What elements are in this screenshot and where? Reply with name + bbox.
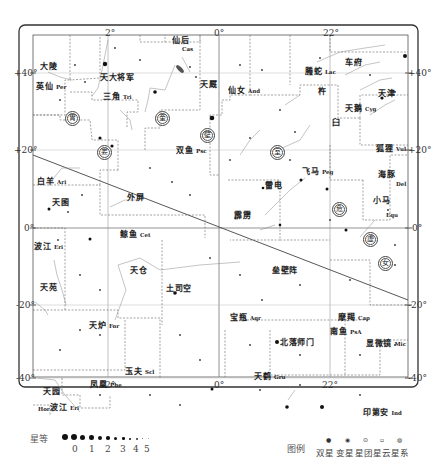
constellation-label: 印第安Ind [363,408,402,418]
lunar-mansion-marker: 胃 [65,111,80,126]
ra-label-top-22h: 22° [323,28,339,38]
constellation-label: 南鱼PsA [330,327,362,337]
constellation-label: 白羊Ari [37,177,66,187]
magnitude-dot [136,438,138,440]
constellation-label: 杵 [318,87,327,96]
star-cluster-icon: ⊙ [363,436,368,443]
constellation-label: 鲸鱼Cet [120,230,150,240]
constellation-label: 波江Eri [34,242,63,252]
magnitude-dot [148,438,149,439]
lunar-mansion-marker: 室 [270,145,285,160]
galaxy-icon: ◍ [397,436,402,443]
constellation-label: 霹雳 [234,211,251,220]
lunar-mansion-marker: 女 [378,256,393,271]
dec-label-right-0: 0° [412,223,422,233]
lunar-mansion-marker: 危 [332,202,347,217]
magnitude-dot [106,436,110,440]
ra-label-top-2h: 2° [105,28,115,38]
constellation-label: 天苑 [40,283,57,292]
magnitude-dot [122,437,125,440]
constellation-label: 北落师门 [280,338,314,347]
dec-label-right-p20: +20° [408,145,432,155]
magnitude-dot [62,434,68,440]
dec-label-left-m40: -40° [16,373,35,383]
magnitude-value: 2 [105,444,111,454]
constellation-label: 三角Tri [103,92,132,102]
magnitude-legend-label: 星等 [30,432,48,445]
constellation-label: 仙女And [228,86,260,96]
ra-label-bottom-22h: 22° [322,380,338,390]
constellation-label: 天园 [43,387,60,396]
variable-star-icon: ◉ [345,436,350,443]
lunar-mansion-marker: 壁 [200,128,215,143]
constellation-abbr: Equ [383,210,398,220]
constellation-label: 双鱼Psc [176,146,207,156]
legend-item: 星系 [391,446,409,458]
constellation-label: 天大将军 [100,73,134,82]
constellation-abbr: Del [393,179,406,189]
constellation-label: 螣蛇Lac [305,67,336,77]
constellation-label: 英仙Per [36,82,66,92]
constellation-label: 摩羯Cap [338,313,370,323]
dec-label-left-m20: -20° [16,300,35,310]
legend-item: 星云 [373,446,391,458]
magnitude-dot [71,434,77,440]
constellation-label: 玉夫Scl [125,367,154,377]
constellation-label: 土司空 [166,284,192,293]
magnitude-value: 0 [72,444,78,454]
legend-item: 星团 [355,446,373,458]
legend-item: 双星 [316,446,334,458]
constellation-label: 天仓 [130,266,147,275]
magnitude-value: 1 [89,444,95,454]
magnitude-dot [129,438,131,440]
lunar-mansion-marker: 虚 [363,232,378,247]
constellation-label: 宝瓶Aqr [230,313,261,323]
double-star-icon: ● [326,436,331,443]
constellation-label: 天囷 [52,198,69,207]
constellation-label: 波江Eri [50,403,79,413]
constellation-label: 飞马Peg [302,167,333,177]
dec-label-right-p40: +40° [408,68,432,78]
constellation-label: 天鹅Cyg [345,104,376,114]
constellation-label: 凤凰Phe [90,380,122,390]
ra-label-bottom-0h: 0° [214,380,224,390]
magnitude-value: 5 [144,444,150,454]
dec-label-left-p20: +20° [14,145,38,155]
constellation-label: 狐狸Vul [376,144,406,154]
constellation-label: 臼 [332,118,341,127]
constellation-label: 外屏 [127,193,144,202]
dec-label-left-0: 0° [24,223,34,233]
constellation-label: 小马 [373,196,390,205]
magnitude-value: 3 [120,444,126,454]
magnitude-dot [80,435,85,440]
constellation-abbr: Hor [35,404,50,414]
constellation-label: 海豚 [378,170,395,179]
constellation-label: 天鹤Gru [254,372,286,382]
dec-label-right-m40: -40° [408,373,427,383]
lunar-mansion-marker: 娄 [97,145,112,160]
dec-label-left-p40: +40° [14,68,38,78]
ra-label-top-0h: 0° [214,28,224,38]
constellation-label: 显微镜Mic [366,339,406,349]
symbol-legend-label: 图例 [287,442,305,455]
constellation-label: 车府 [345,58,362,67]
magnitude-dot [114,437,117,440]
constellation-label: 天厩 [200,80,217,89]
constellation-label: 天津 [378,89,395,98]
legend-item: 变星 [336,446,354,458]
lunar-mansion-marker: 奎 [155,111,170,126]
magnitude-dot [89,435,94,440]
constellation-label: 垒壁阵 [272,266,298,275]
magnitude-dot [98,436,102,440]
constellation-label: 天炉For [89,321,119,331]
constellation-label: 雷电 [265,181,282,190]
nebula-icon: ▫ [380,436,384,443]
magnitude-value: 4 [133,444,139,454]
constellation-abbr: Cas [179,44,193,54]
constellation-label: 大陵 [40,62,57,71]
dec-label-right-m20: -20° [408,300,427,310]
